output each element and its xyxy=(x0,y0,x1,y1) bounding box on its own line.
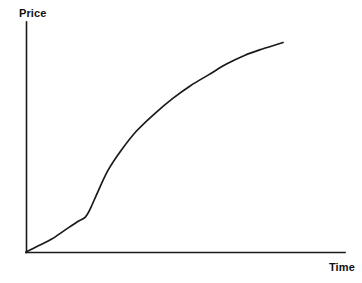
chart-container: Price Time xyxy=(0,0,362,283)
y-axis-label: Price xyxy=(19,7,46,19)
chart-background xyxy=(0,0,362,283)
x-axis-label: Time xyxy=(329,261,355,273)
chart-canvas xyxy=(0,0,362,283)
